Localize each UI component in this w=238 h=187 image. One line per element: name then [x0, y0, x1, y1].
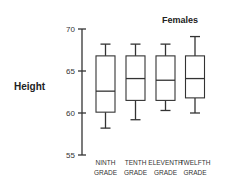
iqr-box	[156, 56, 175, 101]
y-tick-label: 65	[66, 67, 75, 76]
y-axis-label: Height	[14, 81, 46, 92]
y-tick-label: 55	[66, 151, 75, 160]
category-label-line2: GRADE	[154, 169, 178, 176]
iqr-box	[186, 56, 205, 98]
category-label-line1: NINTH	[96, 159, 116, 166]
category-label-line1: ELEVENTH	[148, 159, 183, 166]
category-label-line2: GRADE	[183, 169, 207, 176]
category-label-line2: GRADE	[124, 169, 148, 176]
y-axis: 55606570	[66, 25, 86, 160]
category-label-line1: TWELFTH	[180, 159, 211, 166]
iqr-box	[96, 56, 115, 112]
box-eleventh-grade	[156, 44, 175, 110]
y-tick-label: 60	[66, 109, 75, 118]
x-axis-categories: NINTHGRADETENTHGRADEELEVENTHGRADETWELFTH…	[94, 159, 211, 176]
category-label-line1: TENTH	[125, 159, 147, 166]
boxplot-chart: Females Height 55606570 NINTHGRADETENTHG…	[0, 0, 238, 187]
box-tenth-grade	[126, 44, 145, 120]
box-ninth-grade	[96, 44, 115, 128]
chart-title: Females	[162, 15, 198, 25]
category-label-line2: GRADE	[94, 169, 118, 176]
box-twelfth-grade	[186, 37, 205, 113]
boxes	[96, 37, 205, 129]
y-tick-label: 70	[66, 25, 75, 34]
